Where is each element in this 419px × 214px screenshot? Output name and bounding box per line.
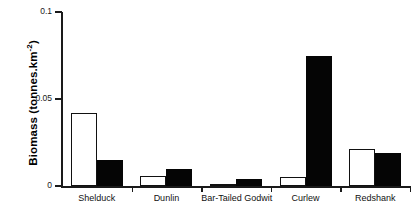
- y-tick-label-text: 0: [18, 181, 52, 190]
- bar-dunlin-white: [140, 176, 166, 186]
- plot-area: [62, 12, 410, 186]
- bar-bar-tailed-godwit-black: [236, 179, 262, 186]
- bar-shelduck-black: [97, 160, 123, 186]
- y-tick-label: 0.1: [10, 7, 52, 17]
- y-axis-title-tail: ): [27, 40, 39, 44]
- bar-dunlin-black: [166, 169, 192, 186]
- x-tick-mark: [201, 186, 202, 192]
- y-tick-label: 0.05: [10, 94, 52, 104]
- x-tick-mark: [132, 186, 133, 192]
- bar-curlew-black: [306, 56, 332, 187]
- bar-shelduck-white: [71, 113, 97, 186]
- x-axis-label-bar-tailed-godwit: Bar-Tailed Godwit: [201, 193, 271, 204]
- x-tick-mark: [271, 186, 272, 192]
- y-tick-label-text: 0.05: [18, 94, 52, 103]
- y-tick-mark: [55, 98, 62, 100]
- y-axis-title-base: Biomass (tonnes.km: [27, 51, 39, 165]
- x-axis-label-redshank: Redshank: [340, 193, 410, 204]
- y-tick-label-text: 0.1: [18, 7, 52, 16]
- y-tick-mark: [55, 185, 62, 187]
- x-axis-label-shelduck: Shelduck: [62, 193, 132, 204]
- x-axis-label-curlew: Curlew: [271, 193, 341, 204]
- x-axis-line: [61, 186, 411, 188]
- y-tick-mark: [55, 11, 62, 13]
- x-axis-label-dunlin: Dunlin: [132, 193, 202, 204]
- x-tick-mark: [340, 186, 341, 192]
- y-tick-label: 0: [10, 181, 52, 191]
- x-tick-mark: [410, 186, 411, 192]
- bar-chart: Biomass (tonnes.km-2) 00.050.1 ShelduckD…: [0, 0, 419, 214]
- bar-bar-tailed-godwit-white: [210, 184, 236, 186]
- y-axis-title-exponent: -2: [25, 44, 34, 51]
- bar-redshank-black: [375, 153, 401, 186]
- bar-curlew-white: [280, 177, 306, 186]
- bar-redshank-white: [349, 149, 375, 186]
